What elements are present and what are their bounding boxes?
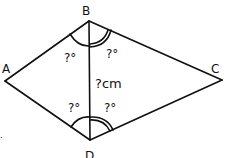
- stray-mark: .: [0, 131, 3, 140]
- angle-arc-adb: [71, 117, 90, 127]
- angle-label-bdc: ?°: [104, 101, 116, 115]
- diagonal-length-label: ?cm: [95, 76, 122, 91]
- vertex-label-b: B: [82, 4, 90, 18]
- diagonal-bd: [89, 21, 90, 140]
- kite-diagram: B A C D ?° ?° ?° ?° ?cm .: [0, 0, 226, 158]
- angle-arc-bdc: [90, 117, 113, 130]
- angle-label-dbc: ?°: [106, 47, 118, 61]
- angle-label-abd: ?°: [64, 51, 76, 65]
- vertex-label-d: D: [85, 149, 94, 158]
- angle-arc-abd: [70, 34, 90, 46]
- vertex-label-c: C: [211, 62, 219, 76]
- vertex-label-a: A: [2, 62, 11, 76]
- side-ab: [5, 21, 89, 81]
- angle-label-adb: ?°: [68, 101, 80, 115]
